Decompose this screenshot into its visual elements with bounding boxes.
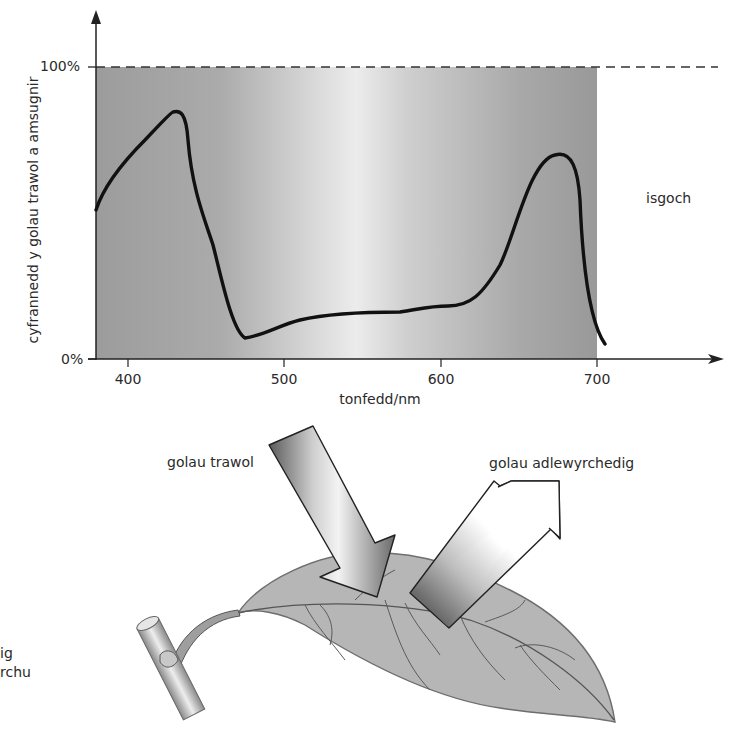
x-tick-label-400: 400	[115, 371, 142, 387]
incident-light-label: golau trawol	[167, 454, 254, 470]
cropped-label-line1: ig	[0, 645, 13, 661]
x-tick-label-600: 600	[428, 371, 455, 387]
diagram-canvas	[0, 0, 732, 731]
x-tick-label-500: 500	[271, 371, 298, 387]
x-axis-label: tonfedd/nm	[339, 391, 420, 407]
y-axis-label: cyfrannedd y golau trawol a amsugnir	[25, 65, 41, 355]
chart	[88, 10, 724, 367]
cropped-label-line2: rchu	[0, 664, 31, 680]
y-tick-label-0: 0%	[61, 351, 83, 367]
x-tick-label-700: 700	[584, 371, 611, 387]
infrared-label: isgoch	[646, 190, 691, 206]
incident-light-arrow	[269, 426, 395, 597]
y-tick-label-100: 100%	[40, 58, 80, 74]
y-axis-arrow-icon	[91, 10, 101, 24]
reflected-light-label: golau adlewyrchedig	[489, 455, 634, 471]
